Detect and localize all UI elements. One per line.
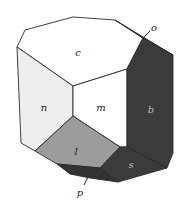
label-b: b xyxy=(148,104,154,115)
label-l: l xyxy=(74,146,77,157)
face-b xyxy=(127,38,173,168)
label-p: p xyxy=(77,187,84,198)
label-m: m xyxy=(96,102,105,113)
label-c: c xyxy=(75,47,81,58)
label-o: o xyxy=(151,22,157,33)
label-s: s xyxy=(128,159,133,170)
leader-p xyxy=(84,177,88,185)
label-n: n xyxy=(41,102,47,113)
crystal-diagram: c n m b l s p o xyxy=(0,0,186,211)
leader-o xyxy=(143,31,150,38)
